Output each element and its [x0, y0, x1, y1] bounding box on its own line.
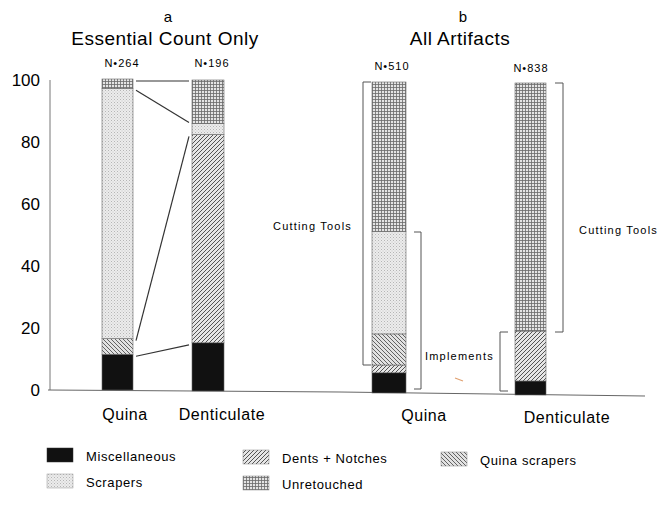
bracket-implements-denticulate [500, 332, 508, 391]
bar-segment-b-denticulate-miscellaneous [515, 381, 546, 395]
y-tick-label: 80 [21, 133, 40, 152]
legend-label-dents-notches: Dents + Notches [282, 451, 387, 466]
n-label-b-denticulate: N•838 [513, 62, 548, 74]
legend-swatch-dents-notches [243, 450, 269, 464]
n-label-b-quina: N•510 [374, 60, 409, 72]
bar-segment-a-quina-scrapers [102, 88, 133, 338]
y-tick-label: 0 [31, 381, 40, 400]
bar-segment-a-quina-unretouched [102, 79, 133, 88]
panel-a-letter: a [164, 8, 173, 25]
bar-segment-a-quina-quina-scrapers [102, 339, 133, 355]
annotation-implements: Implements [425, 350, 494, 362]
bar-segment-a-denticulate-dents-notches [192, 134, 224, 342]
bar-segment-b-quina-unretouched [372, 82, 406, 231]
bar-segment-a-denticulate-unretouched [192, 80, 224, 124]
panel-b-title: All Artifacts [410, 28, 510, 49]
stray-mark [455, 378, 463, 381]
annotation-cutting-tools-left: Cutting Tools [273, 220, 352, 232]
bar-segment-b-quina-scrapers [372, 231, 406, 334]
chart-canvas: a Essential Count Only b All Artifacts N… [0, 0, 665, 507]
connector-unretouched [136, 90, 189, 122]
legend-swatch-scrapers [47, 474, 73, 488]
annotation-cutting-tools-right: Cutting Tools [579, 224, 658, 236]
legend-label-unretouched: Unretouched [282, 477, 363, 492]
category-label-a-denticulate: Denticulate [179, 406, 266, 423]
legend-label-miscellaneous: Miscellaneous [86, 449, 176, 464]
connector-scrapers [136, 136, 189, 340]
y-tick-label: 60 [21, 195, 40, 214]
legend-swatch-miscellaneous [47, 448, 73, 462]
y-tick-label: 20 [21, 319, 40, 338]
connector-misc [136, 345, 189, 356]
panel-a-title: Essential Count Only [71, 28, 258, 49]
y-tick-label: 100 [12, 71, 40, 90]
legend-swatch-unretouched [243, 476, 269, 490]
n-label-a-denticulate: N•196 [194, 57, 229, 69]
category-label-a-quina: Quina [102, 406, 148, 423]
bar-segment-b-denticulate-unretouched [515, 83, 546, 331]
legend-swatch-quina-scrapers [441, 452, 467, 466]
legend-label-scrapers: Scrapers [86, 475, 143, 490]
bar-segment-b-quina-miscellaneous [372, 373, 406, 393]
category-label-b-denticulate: Denticulate [524, 409, 611, 426]
bar-segment-b-quina-dents-notches [372, 365, 406, 373]
bracket-cutting-tools-quina [363, 82, 371, 365]
bar-segment-b-denticulate-dents-notches [515, 331, 546, 381]
bracket-implements-quina [414, 232, 421, 389]
bar-segment-a-denticulate-scrapers [192, 124, 224, 135]
category-label-b-quina: Quina [401, 407, 447, 424]
legend: Miscellaneous Dents + Notches Quina scra… [47, 448, 577, 492]
bar-segment-a-quina-miscellaneous [102, 354, 133, 390]
n-label-a-quina: N•264 [104, 57, 139, 69]
bar-segment-b-quina-quina-scrapers [372, 334, 406, 365]
panel-b-letter: b [459, 8, 467, 25]
bracket-cutting-tools-denticulate [555, 83, 563, 332]
y-tick-label: 40 [21, 257, 40, 276]
bar-segment-a-denticulate-miscellaneous [192, 343, 224, 391]
legend-label-quina-scrapers: Quina scrapers [480, 453, 577, 468]
